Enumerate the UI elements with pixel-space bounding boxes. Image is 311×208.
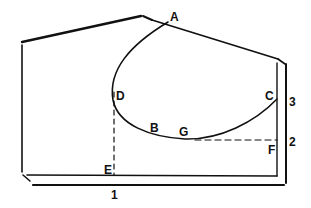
roof-left-edge xyxy=(22,16,141,42)
roof-right-edge xyxy=(152,20,278,59)
label-1: 1 xyxy=(111,188,118,202)
label-2: 2 xyxy=(289,135,296,149)
roof-notch xyxy=(143,16,152,20)
curve-ADBGC xyxy=(112,22,277,139)
label-3: 3 xyxy=(289,95,296,109)
label-G: G xyxy=(179,125,188,139)
label-B: B xyxy=(150,121,159,135)
left-bottom-corner xyxy=(23,175,30,181)
inner-bottom-edge xyxy=(27,175,277,176)
label-E: E xyxy=(104,163,112,177)
label-F: F xyxy=(268,143,275,157)
diagram-canvas: A B C D E F G 1 2 3 xyxy=(0,0,311,208)
label-C: C xyxy=(265,89,274,103)
roof-corner xyxy=(278,59,285,64)
label-A: A xyxy=(170,10,179,24)
label-D: D xyxy=(116,89,125,103)
